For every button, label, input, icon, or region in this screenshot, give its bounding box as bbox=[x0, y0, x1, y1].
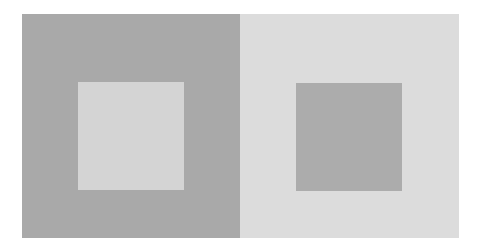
left-dark-panel bbox=[22, 14, 240, 238]
left-light-square bbox=[78, 82, 184, 190]
right-light-panel bbox=[240, 14, 459, 238]
right-dark-square bbox=[296, 83, 402, 191]
